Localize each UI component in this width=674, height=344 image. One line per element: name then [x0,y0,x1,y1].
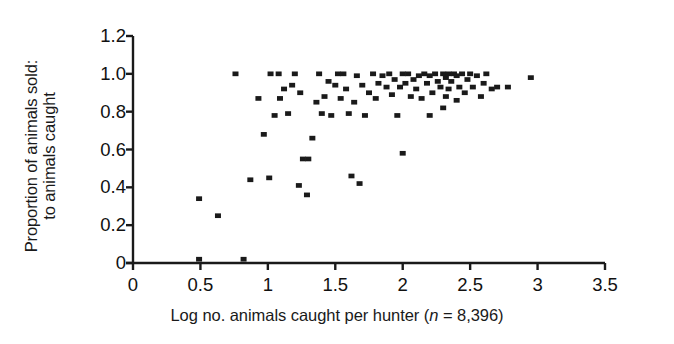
data-point [454,73,460,78]
data-point [435,79,441,84]
data-point [343,87,349,92]
data-point [478,94,484,99]
data-point [411,77,417,82]
data-point [416,73,422,78]
data-point [456,85,462,90]
plot-area [0,0,674,344]
data-point [292,71,298,76]
data-point [427,113,433,118]
data-point [489,87,495,92]
data-point [505,85,511,90]
data-point [335,71,341,76]
data-point [261,132,267,137]
data-point [359,83,365,88]
data-point [470,85,476,90]
data-point [362,113,368,118]
data-point [402,81,408,86]
data-point [379,73,385,78]
data-point [297,90,303,95]
data-point [432,71,438,76]
data-point [427,73,433,78]
data-point [196,257,202,262]
axis-ticks [126,36,605,270]
data-point [340,71,346,76]
data-point [413,87,419,92]
data-point [429,90,435,95]
data-point [338,96,344,101]
data-points [196,71,534,261]
data-point [405,71,411,76]
data-point [481,81,487,86]
data-point [397,85,403,90]
data-point [446,71,452,76]
data-point [459,71,465,76]
data-point [370,71,376,76]
data-point [276,71,282,76]
data-point [392,77,398,82]
data-point [322,94,328,99]
data-point [448,79,454,84]
data-point [266,176,272,181]
data-point [440,106,446,111]
data-point [408,94,414,99]
data-point [215,213,221,218]
data-point [326,79,332,84]
data-point [316,71,322,76]
data-point [196,196,202,201]
data-point [483,71,489,76]
data-point [313,100,319,105]
data-point [300,157,306,162]
data-point [454,98,460,103]
data-point [268,71,274,76]
data-point [394,113,400,118]
data-point [389,92,395,97]
data-point [232,71,238,76]
data-point [281,87,287,92]
data-point [528,75,534,80]
data-point [386,71,392,76]
data-point [305,157,311,162]
data-point [351,100,357,105]
data-point [462,90,468,95]
data-point [494,85,500,90]
data-point [319,111,325,116]
data-point [443,94,449,99]
data-point [272,113,278,118]
data-point [346,111,352,116]
data-point [328,113,334,118]
data-point [289,83,295,88]
data-point [241,257,247,262]
data-point [332,83,338,88]
data-point [366,90,372,95]
data-point [247,177,253,182]
data-point [277,96,283,101]
data-point [467,71,473,76]
data-point [348,174,354,179]
data-point [296,183,302,188]
data-point [464,77,470,82]
data-point [255,96,261,101]
data-point [354,73,360,78]
data-point [373,96,379,101]
data-point [446,87,452,92]
data-point [285,111,291,116]
data-point [357,181,363,186]
data-point [421,71,427,76]
data-point [384,85,390,90]
data-point [304,193,310,198]
data-point [400,71,406,76]
data-point [437,85,443,90]
data-point [400,151,406,156]
axes-lines [126,36,605,263]
data-point [309,136,315,141]
scatter-chart-figure: Proportion of animals sold: to animals c… [0,0,674,344]
data-point [419,96,425,101]
data-point [474,73,480,78]
data-point [375,81,381,86]
data-point [424,81,430,86]
